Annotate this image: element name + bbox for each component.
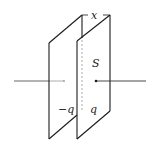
right-contact-dot [95,80,98,83]
left-contact-dot [63,80,65,82]
separation-label: x [91,9,98,22]
right-charge-label: q [90,103,97,116]
left-charge-label: −q [58,103,74,116]
area-label: S [92,57,100,70]
capacitor-diagram: x S −q q [0,0,154,148]
